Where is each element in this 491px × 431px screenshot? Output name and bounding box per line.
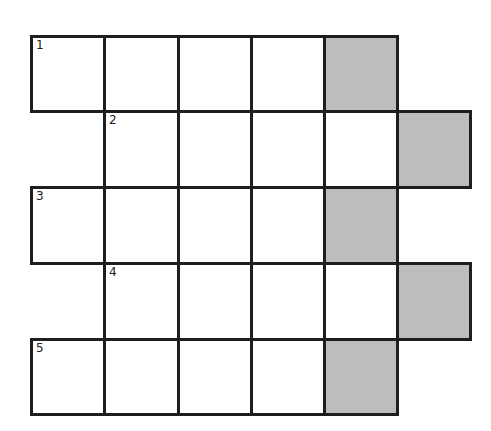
grid-cell[interactable]: 3 [30,186,106,265]
shaded-cell [396,110,472,189]
shaded-cell [323,186,399,265]
clue-number: 1 [36,39,44,51]
grid-cell[interactable] [177,262,253,341]
grid-cell[interactable] [250,35,326,113]
shaded-cell [323,35,399,113]
grid-cell[interactable] [103,186,180,265]
clue-number: 5 [36,342,44,354]
grid-cell[interactable] [323,262,399,341]
shaded-cell [323,338,399,416]
grid-cell[interactable] [250,338,326,416]
grid-cell[interactable] [177,338,253,416]
clue-number: 2 [109,114,117,126]
grid-cell[interactable] [323,110,399,189]
shaded-cell [396,262,472,341]
grid-cell[interactable] [177,186,253,265]
grid-cell[interactable] [177,35,253,113]
clue-number: 4 [109,266,117,278]
grid-cell[interactable]: 5 [30,338,106,416]
grid-cell[interactable] [103,35,180,113]
grid-cell[interactable]: 4 [103,262,180,341]
clue-number: 3 [36,190,44,202]
grid-cell[interactable]: 1 [30,35,106,113]
grid-cell[interactable] [250,186,326,265]
grid-cell[interactable]: 2 [103,110,180,189]
grid-cell[interactable] [250,110,326,189]
grid-cell[interactable] [103,338,180,416]
grid-cell[interactable] [177,110,253,189]
grid-cell[interactable] [250,262,326,341]
